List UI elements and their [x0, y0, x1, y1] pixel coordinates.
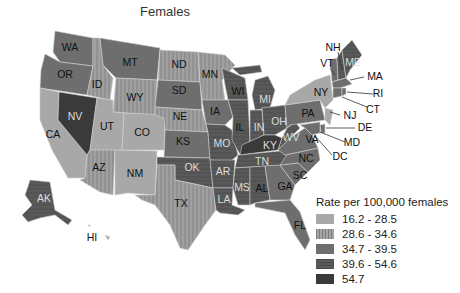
label-me: ME [345, 56, 361, 68]
label-ky: KY [263, 139, 277, 151]
label-ne: NE [173, 110, 188, 122]
map-legend: Rate per 100,000 females 16.2 - 28.5 28.… [316, 196, 448, 286]
label-nv: NV [68, 110, 83, 122]
label-nj: NJ [344, 109, 357, 121]
label-ut: UT [100, 120, 115, 132]
label-mn: MN [202, 68, 218, 80]
label-ks: KS [176, 135, 190, 147]
legend-label: 16.2 - 28.5 [342, 213, 397, 225]
label-id: ID [92, 78, 103, 90]
label-dc: DC [332, 150, 348, 162]
state-de[interactable] [320, 124, 325, 133]
label-pa: PA [301, 107, 314, 119]
legend-item: 34.7 - 39.5 [316, 241, 448, 256]
legend-swatch [316, 214, 334, 224]
label-ca: CA [46, 128, 61, 140]
label-al: AL [256, 182, 269, 194]
label-az: AZ [92, 161, 106, 173]
label-ak: AK [37, 192, 51, 204]
label-va: VA [305, 133, 318, 145]
label-hi: HI [87, 231, 98, 243]
label-ny: NY [314, 86, 329, 98]
label-nh: NH [325, 41, 340, 53]
legend-swatch [316, 259, 334, 269]
label-la: LA [218, 193, 231, 205]
label-co: CO [134, 126, 150, 138]
label-ri: RI [373, 87, 384, 99]
label-mi: MI [259, 93, 271, 105]
label-ia: IA [210, 105, 220, 117]
label-ms: MS [234, 181, 250, 193]
legend-item: 28.6 - 34.6 [316, 226, 448, 241]
label-mt: MT [122, 56, 138, 68]
label-ok: OK [184, 161, 199, 173]
label-sd: SD [172, 84, 187, 96]
label-ma: MA [367, 70, 383, 82]
label-ct: CT [366, 103, 381, 115]
label-wv: WV [283, 131, 300, 143]
state-ri[interactable] [342, 88, 346, 96]
label-nm: NM [127, 167, 143, 179]
label-oh: OH [271, 115, 287, 127]
label-wa: WA [62, 41, 79, 53]
label-in: IN [254, 121, 265, 133]
legend-item: 39.6 - 54.6 [316, 256, 448, 271]
label-vt: VT [320, 57, 334, 69]
label-nd: ND [171, 58, 187, 70]
legend-label: 54.7 [342, 273, 364, 285]
label-mo: MO [214, 137, 231, 149]
label-wi: WI [232, 85, 245, 97]
legend-title: Rate per 100,000 females [316, 196, 448, 208]
label-sc: SC [293, 169, 308, 181]
legend-item: 16.2 - 28.5 [316, 211, 448, 226]
label-ar: AR [216, 165, 231, 177]
label-md: MD [344, 136, 361, 148]
legend-label: 34.7 - 39.5 [342, 243, 397, 255]
legend-label: 28.6 - 34.6 [342, 228, 397, 240]
legend-swatch [316, 244, 334, 254]
label-nc: NC [298, 152, 314, 164]
state-ct[interactable] [333, 88, 342, 98]
label-tn: TN [255, 155, 269, 167]
label-il: IL [236, 121, 245, 133]
label-tx: TX [174, 197, 187, 209]
legend-item: 54.7 [316, 271, 448, 286]
label-wy: WY [127, 91, 144, 103]
label-fl: FL [294, 219, 306, 231]
label-or: OR [57, 68, 73, 80]
legend-label: 39.6 - 54.6 [342, 258, 397, 270]
label-ga: GA [277, 180, 292, 192]
legend-swatch [316, 229, 334, 239]
label-de: DE [358, 121, 373, 133]
legend-swatch [316, 274, 334, 284]
state-nj[interactable] [325, 108, 333, 125]
